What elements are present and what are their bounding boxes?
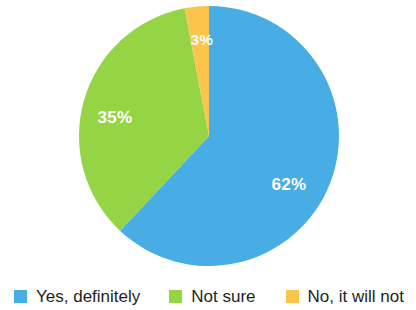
legend-label-yes-definitely: Yes, definitely bbox=[36, 287, 140, 306]
legend-label-not-sure: Not sure bbox=[191, 287, 255, 306]
legend-swatch-icon-not-sure bbox=[169, 290, 182, 303]
pie-chart-figure: 62% 35% 3% Yes, definitely Not sure No, … bbox=[0, 0, 416, 310]
pie-label-not-sure: 35% bbox=[98, 108, 133, 127]
legend-item-not-sure[interactable]: Not sure bbox=[169, 283, 255, 310]
legend-item-yes-definitely[interactable]: Yes, definitely bbox=[14, 283, 140, 310]
pie-label-no-it-will-not: 3% bbox=[191, 31, 213, 48]
pie-chart-plot-area: 62% 35% 3% bbox=[0, 0, 416, 272]
legend-label-no-it-will-not: No, it will not bbox=[308, 287, 404, 306]
pie-label-yes-definitely: 62% bbox=[272, 175, 307, 194]
pie-chart-svg: 62% 35% 3% bbox=[0, 0, 416, 272]
legend-swatch-icon-yes-definitely bbox=[14, 290, 27, 303]
chart-legend: Yes, definitely Not sure No, it will not bbox=[0, 283, 416, 310]
legend-item-no-it-will-not[interactable]: No, it will not bbox=[286, 283, 404, 310]
legend-swatch-icon-no-it-will-not bbox=[286, 290, 299, 303]
